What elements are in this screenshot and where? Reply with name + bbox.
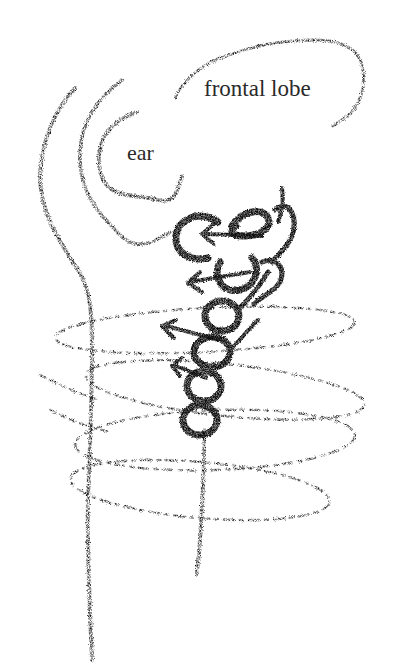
central-stem [196, 430, 205, 575]
vertebrae-column [176, 188, 294, 435]
frontal-lobe-label: frontal lobe [204, 76, 311, 102]
outer-spine-curve [40, 88, 92, 660]
inner-ear-arc [80, 80, 170, 244]
crayon-sketch [0, 0, 399, 669]
ear-label: ear [127, 140, 154, 166]
